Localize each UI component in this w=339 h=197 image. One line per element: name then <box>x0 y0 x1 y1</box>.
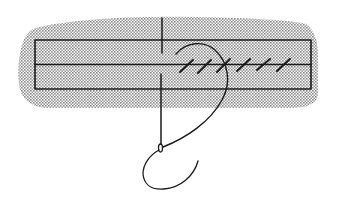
thread-loop <box>143 150 198 189</box>
stitch-diagram <box>0 0 339 197</box>
needle-eye <box>159 144 163 152</box>
fabric-shading <box>18 17 318 108</box>
